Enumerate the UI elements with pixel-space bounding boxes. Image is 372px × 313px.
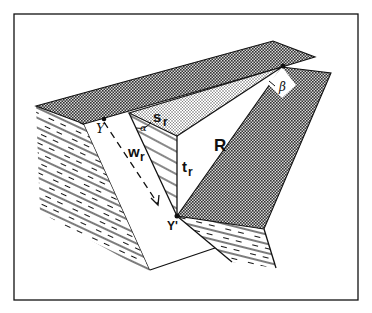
label-s-r: s [153, 108, 161, 125]
label-s-r-sub: r [163, 115, 168, 129]
label-w-r: w [127, 143, 140, 160]
label-Y: Y [96, 121, 106, 136]
label-alpha: α [140, 122, 147, 133]
label-w-r-sub: r [140, 150, 145, 164]
hinge-point [281, 64, 286, 69]
fault-block-diagram: Y Y' s r w r t r R α β [0, 0, 372, 313]
label-t-r: t [182, 158, 187, 175]
label-Y-prime: Y' [167, 219, 178, 233]
label-t-r-sub: r [188, 165, 193, 179]
point-Y-prime [175, 214, 180, 219]
label-R: R [214, 136, 226, 155]
label-beta: β [278, 80, 286, 94]
